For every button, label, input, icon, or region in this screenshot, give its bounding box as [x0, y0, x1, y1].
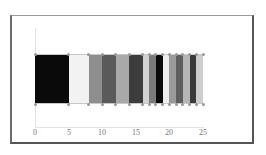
- bar-segment: [116, 54, 130, 104]
- bar-segment: [196, 54, 203, 104]
- x-tick-10: 10: [98, 128, 106, 137]
- segment-marker: [188, 53, 191, 56]
- segment-marker: [195, 53, 198, 56]
- segment-marker: [188, 103, 191, 106]
- segment-marker: [67, 53, 70, 56]
- x-tick-25: 25: [199, 128, 207, 137]
- segment-marker: [128, 53, 131, 56]
- segment-marker: [202, 53, 205, 56]
- segment-marker: [34, 103, 37, 106]
- bar-segment: [102, 54, 116, 104]
- segment-marker: [34, 53, 37, 56]
- segment-marker: [168, 53, 171, 56]
- segment-marker: [114, 53, 117, 56]
- segment-marker: [168, 103, 171, 106]
- bar-segment: [89, 54, 103, 104]
- bar-segment: [69, 54, 90, 104]
- bar-segment: [129, 54, 143, 104]
- segment-marker: [87, 103, 90, 106]
- x-tick-0: 0: [33, 128, 37, 137]
- segment-marker: [161, 53, 164, 56]
- segment-marker: [181, 53, 184, 56]
- segment-marker: [141, 53, 144, 56]
- segment-marker: [101, 103, 104, 106]
- segment-marker: [128, 103, 131, 106]
- segment-marker: [181, 103, 184, 106]
- x-axis-line: [35, 127, 204, 128]
- segment-marker: [101, 53, 104, 56]
- segment-marker: [148, 53, 151, 56]
- segment-marker: [141, 103, 144, 106]
- bar-segment: [35, 54, 69, 104]
- segment-marker: [195, 103, 198, 106]
- segment-marker: [202, 103, 205, 106]
- segment-marker: [148, 103, 151, 106]
- x-tick-20: 20: [165, 128, 173, 137]
- segment-marker: [161, 103, 164, 106]
- x-tick-5: 5: [67, 128, 71, 137]
- segment-marker: [175, 53, 178, 56]
- segment-marker: [114, 103, 117, 106]
- x-tick-15: 15: [132, 128, 140, 137]
- segment-marker: [175, 103, 178, 106]
- segment-marker: [67, 103, 70, 106]
- segment-marker: [87, 53, 90, 56]
